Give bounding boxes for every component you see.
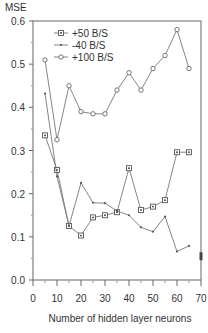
legend-label: +100 B/S	[72, 52, 114, 63]
open-circle-marker	[43, 58, 47, 62]
y-tick-label: 0.2	[11, 189, 25, 200]
dot-marker	[80, 182, 82, 184]
open-circle-marker	[59, 55, 63, 59]
y-tick-label: 0.1	[11, 232, 25, 243]
open-circle-marker	[91, 112, 95, 116]
boxed-dot-marker-center	[44, 134, 46, 136]
open-circle-marker	[127, 71, 131, 75]
y-tick-label: 0.0	[11, 275, 25, 286]
y-tick-label: 0.6	[11, 16, 25, 27]
edge-marker	[200, 252, 203, 260]
open-circle-marker	[151, 66, 155, 70]
x-tick-label: 0	[30, 293, 36, 304]
dot-marker	[92, 202, 94, 204]
x-tick-label: 50	[147, 293, 159, 304]
boxed-dot-marker-center	[152, 206, 154, 208]
open-circle-marker	[103, 112, 107, 116]
open-circle-marker	[175, 27, 179, 31]
open-circle-marker	[163, 53, 167, 57]
legend: +50 B/S-40 B/S+100 B/S	[54, 28, 114, 63]
y-axis: 0.00.10.20.30.40.50.6	[11, 16, 33, 286]
x-axis: 010203040506070	[30, 280, 207, 304]
x-tick-label: 40	[123, 293, 135, 304]
series-line	[45, 135, 189, 235]
dot-marker	[128, 214, 130, 216]
open-circle-marker	[187, 66, 191, 70]
dot-marker	[104, 202, 106, 204]
y-tick-label: 0.4	[11, 102, 25, 113]
boxed-dot-marker-center	[104, 214, 106, 216]
dot-marker	[176, 250, 178, 252]
y-tick-label: 0.3	[11, 146, 25, 157]
dot-marker	[44, 92, 46, 94]
boxed-dot-marker-center	[188, 151, 190, 153]
dot-marker	[60, 44, 62, 46]
x-axis-title: Number of hidden layer neurons	[49, 313, 192, 324]
dot-marker	[164, 215, 166, 217]
dot-marker	[56, 175, 58, 177]
annotation-layer	[200, 252, 203, 260]
x-tick-label: 30	[99, 293, 111, 304]
boxed-dot-marker-center	[92, 217, 94, 219]
open-circle-marker	[139, 88, 143, 92]
series--40-b-s	[44, 92, 190, 252]
boxed-dot-marker-center	[80, 235, 82, 237]
series-layer	[43, 27, 192, 252]
dot-marker	[188, 245, 190, 247]
dot-marker	[140, 226, 142, 228]
x-tick-label: 60	[171, 293, 183, 304]
open-circle-marker	[55, 138, 59, 142]
boxed-dot-marker-center	[140, 209, 142, 211]
boxed-dot-marker-center	[164, 199, 166, 201]
boxed-dot-marker-center	[176, 151, 178, 153]
dot-marker	[68, 225, 70, 227]
open-circle-marker	[115, 88, 119, 92]
open-circle-marker	[79, 109, 83, 113]
mse-line-chart: MSE Number of hidden layer neurons 0.00.…	[0, 0, 208, 333]
series--50-b-s	[43, 133, 192, 238]
open-circle-marker	[67, 84, 71, 88]
y-axis-title: MSE	[5, 2, 27, 13]
legend-label: +50 B/S	[72, 28, 108, 39]
dot-marker	[116, 210, 118, 212]
x-tick-label: 70	[195, 293, 207, 304]
legend-label: -40 B/S	[72, 40, 106, 51]
x-tick-label: 10	[51, 293, 63, 304]
boxed-dot-marker-center	[60, 32, 62, 34]
boxed-dot-marker-center	[128, 167, 130, 169]
dot-marker	[152, 231, 154, 233]
y-tick-label: 0.5	[11, 59, 25, 70]
x-tick-label: 20	[75, 293, 87, 304]
